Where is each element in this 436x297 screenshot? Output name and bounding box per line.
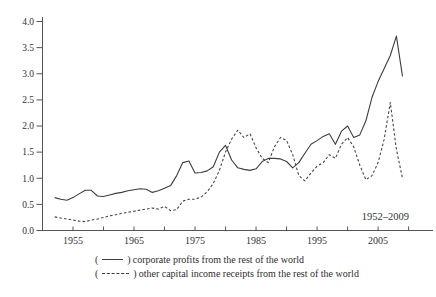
legend-close-paren: ) [127, 253, 130, 267]
y-axis-tick-label: 0.0 [22, 226, 34, 236]
legend-open-paren: ( [95, 253, 98, 267]
legend-open-paren: ( [95, 267, 98, 281]
y-axis-tick-label: 2.5 [22, 95, 34, 105]
y-axis-tick-label: 1.5 [22, 147, 34, 157]
period-annotation: 1952–2009 [362, 211, 409, 222]
legend-label-other-capital-income: other capital income receipts from the r… [139, 268, 359, 279]
x-axis-tick-label: 1965 [124, 235, 144, 246]
dashed-line-sample-icon [102, 273, 129, 274]
x-axis-tick-label: 1975 [185, 235, 205, 246]
legend-item-corporate-profits: ()corporate profits from the rest of the… [95, 253, 436, 267]
legend-close-paren: ) [133, 267, 136, 281]
y-axis-tick-label: 2.0 [22, 121, 34, 131]
x-axis-tick-label: 1985 [246, 235, 266, 246]
figure-canvas: 0.00.51.01.52.02.53.03.54.01955196519751… [0, 0, 436, 297]
x-axis-tick-label: 1955 [63, 235, 83, 246]
legend-item-other-capital-income: ()other capital income receipts from the… [95, 267, 436, 281]
chart-svg: 0.00.51.01.52.02.53.03.54.01955196519751… [0, 0, 436, 250]
y-axis-tick-label: 3.0 [22, 69, 34, 79]
chart-legend: ()corporate profits from the rest of the… [0, 253, 436, 280]
x-axis-tick-label: 2005 [368, 235, 388, 246]
legend-label-corporate-profits: corporate profits from the rest of the w… [133, 254, 304, 265]
x-axis-tick-label: 1995 [307, 235, 327, 246]
y-axis-tick-label: 3.5 [22, 43, 34, 53]
y-axis-tick-label: 1.0 [22, 174, 34, 184]
series-line-other-capital-income [55, 103, 403, 222]
y-axis-tick-label: 0.5 [22, 200, 34, 210]
solid-line-sample-icon [102, 259, 123, 260]
series-line-corporate-profits [55, 36, 403, 200]
y-axis-tick-label: 4.0 [22, 17, 34, 27]
